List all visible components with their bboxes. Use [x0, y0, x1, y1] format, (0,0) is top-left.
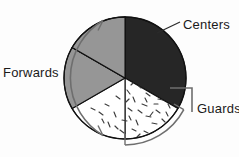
centers-leader-line	[157, 22, 180, 33]
label-forwards: Forwards	[3, 65, 59, 80]
label-guards: Guards	[197, 101, 239, 116]
label-centers: Centers	[183, 17, 230, 32]
pie-chart-figure: Centers Guards Forwards	[0, 0, 239, 157]
